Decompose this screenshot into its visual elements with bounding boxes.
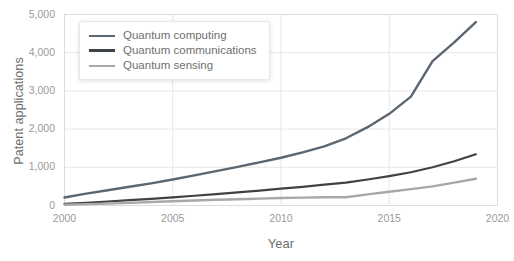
x-axis-title: Year [64, 236, 498, 251]
legend-line-swatch-icon [89, 35, 115, 37]
y-tick-label: 5,000 [3, 8, 55, 20]
legend-item-label: Quantum communications [123, 43, 257, 58]
x-tick-label: 2000 [38, 212, 92, 224]
legend-item[interactable]: Quantum communications [89, 43, 257, 58]
y-tick-label: 1,000 [3, 160, 55, 172]
y-tick-label: 2,000 [3, 122, 55, 134]
legend: Quantum computingQuantum communicationsQ… [79, 21, 270, 80]
legend-item-label: Quantum sensing [123, 58, 213, 73]
legend-item-label: Quantum computing [123, 28, 227, 43]
legend-item[interactable]: Quantum computing [89, 28, 257, 43]
x-tick-label: 2015 [362, 212, 416, 224]
legend-line-swatch-icon [89, 65, 115, 67]
legend-item[interactable]: Quantum sensing [89, 58, 257, 73]
line-chart: Patent applications Year 5,0004,0003,000… [0, 0, 514, 261]
x-tick-label: 2005 [146, 212, 200, 224]
y-tick-label: 3,000 [3, 84, 55, 96]
legend-line-swatch-icon [89, 49, 115, 52]
x-tick-label: 2020 [471, 212, 514, 224]
y-tick-label: 4,000 [3, 46, 55, 58]
x-tick-label: 2010 [254, 212, 308, 224]
y-tick-label: 0 [3, 199, 55, 211]
series-line [65, 154, 476, 204]
